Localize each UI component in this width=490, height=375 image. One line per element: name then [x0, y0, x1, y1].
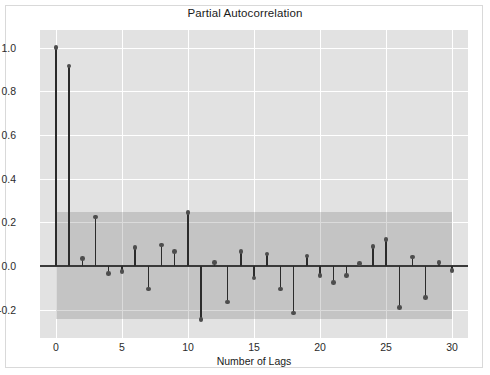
- pacf-marker: [80, 256, 85, 261]
- pacf-stem: [161, 245, 163, 266]
- pacf-stem: [227, 266, 229, 302]
- y-tick-label: 0.6: [0, 129, 16, 141]
- pacf-stem: [68, 66, 70, 266]
- y-tick-label: 0.2: [0, 216, 16, 228]
- x-axis-label: Number of Lags: [40, 355, 468, 367]
- y-tick-label: 0.4: [0, 173, 16, 185]
- pacf-stem: [148, 266, 150, 289]
- x-tick-label: 5: [102, 341, 142, 353]
- pacf-stem: [385, 240, 387, 266]
- pacf-marker: [423, 295, 428, 300]
- pacf-marker: [186, 210, 191, 215]
- x-tick-label: 0: [36, 341, 76, 353]
- pacf-marker: [437, 260, 442, 265]
- x-tick-label: 10: [168, 341, 208, 353]
- pacf-stem: [372, 246, 374, 266]
- pacf-marker: [371, 244, 376, 249]
- pacf-stem: [95, 217, 97, 266]
- gridline-vertical: [452, 30, 453, 338]
- pacf-stem: [280, 266, 282, 289]
- pacf-marker: [106, 271, 111, 276]
- pacf-stem: [55, 48, 57, 266]
- x-tick-label: 30: [432, 341, 472, 353]
- x-tick-label: 15: [234, 341, 274, 353]
- pacf-marker: [239, 249, 244, 254]
- pacf-marker: [146, 287, 151, 292]
- pacf-stem: [425, 266, 427, 298]
- pacf-stem: [293, 266, 295, 313]
- pacf-marker: [212, 260, 217, 265]
- pacf-marker: [357, 261, 362, 266]
- pacf-marker: [54, 45, 59, 50]
- pacf-marker: [172, 249, 177, 254]
- x-tick-label: 20: [300, 341, 340, 353]
- y-tick-label: 0.0: [0, 260, 16, 272]
- pacf-stem: [187, 212, 189, 266]
- pacf-marker: [291, 311, 296, 316]
- pacf-marker: [344, 273, 349, 278]
- chart-title: Partial Autocorrelation: [0, 7, 490, 19]
- pacf-marker: [133, 245, 138, 250]
- pacf-marker: [331, 280, 336, 285]
- pacf-marker: [199, 317, 204, 322]
- pacf-marker: [450, 268, 455, 273]
- y-tick-label: 1.0: [0, 42, 16, 54]
- pacf-marker: [93, 215, 98, 220]
- pacf-marker: [120, 269, 125, 274]
- pacf-stem: [134, 247, 136, 266]
- pacf-marker: [397, 305, 402, 310]
- y-tick-label: 0.8: [0, 85, 16, 97]
- pacf-marker: [67, 64, 72, 69]
- pacf-stem: [399, 266, 401, 308]
- partial-autocorrelation-figure: Partial Autocorrelation -0.20.00.20.40.6…: [0, 0, 490, 375]
- x-tick-label: 25: [366, 341, 406, 353]
- pacf-marker: [278, 287, 283, 292]
- pacf-stem: [200, 266, 202, 320]
- y-tick-label: -0.2: [0, 304, 16, 316]
- plot-panel: [40, 30, 468, 338]
- pacf-marker: [225, 300, 230, 305]
